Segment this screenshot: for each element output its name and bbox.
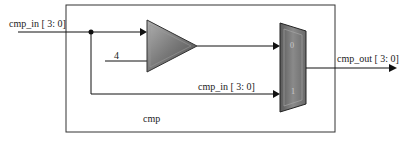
mux-input-0-label: 0 xyxy=(290,42,294,50)
arrow-icon xyxy=(273,42,280,50)
arrow-icon xyxy=(273,90,280,98)
bypass-label: cmp_in [ 3: 0] xyxy=(198,82,255,92)
mux-input-1-label: 1 xyxy=(291,88,295,96)
arrow-icon xyxy=(140,28,147,36)
output-label: cmp_out [ 3: 0] xyxy=(337,54,399,64)
arrow-icon xyxy=(389,64,397,72)
constant-label: 4 xyxy=(114,51,119,61)
comparator-block[interactable] xyxy=(147,20,197,72)
module-name-label: cmp xyxy=(143,114,160,124)
input-label: cmp_in [ 3: 0] xyxy=(9,19,66,29)
